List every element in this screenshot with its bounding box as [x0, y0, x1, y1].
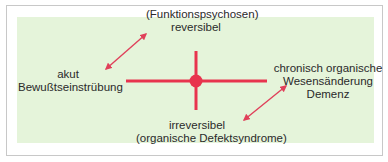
- label-top-reversibel: (Funktionspsychosen) reversibel: [146, 8, 246, 34]
- label-bottom-line2: (organische Defektsyndrome): [136, 132, 258, 145]
- label-right-line1: chronisch organische: [270, 62, 386, 75]
- label-top-line2: reversibel: [146, 21, 246, 34]
- label-bottom-irreversibel: irreversibel (organische Defektsyndrome): [136, 119, 258, 145]
- label-right-line3: Demenz: [270, 88, 386, 101]
- label-left-line2: Bewußtseinstrübung: [18, 81, 118, 94]
- center-node-dot: [190, 75, 203, 88]
- label-left-line1: akut: [18, 68, 118, 81]
- label-top-line1: (Funktionspsychosen): [146, 8, 246, 21]
- label-left-akut: akut Bewußtseinstrübung: [18, 68, 118, 94]
- label-right-chronisch: chronisch organische Wesensänderung Deme…: [270, 62, 386, 101]
- double-arrow-left-top: [106, 34, 146, 69]
- label-right-line2: Wesensänderung: [270, 75, 386, 88]
- label-bottom-line1: irreversibel: [136, 119, 258, 132]
